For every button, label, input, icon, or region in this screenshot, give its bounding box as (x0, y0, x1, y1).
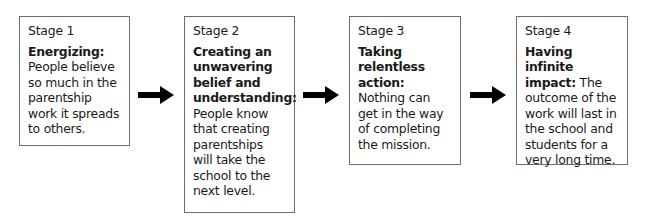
stage-4-box: Stage 4 Having infinite impact: The outc… (516, 16, 628, 165)
stage-2-text: Creating an unwavering belief and unders… (193, 44, 286, 199)
stage-3-text: Taking relentless action: Nothing can ge… (358, 44, 452, 153)
stage-4-text: Having infinite impact: The outcome of t… (525, 44, 619, 168)
stage-1-description: People believe so much in the parentship… (28, 59, 119, 136)
stage-2-description: People know that creating parentships wi… (193, 106, 270, 199)
stage-3-label: Stage 3 (358, 23, 452, 39)
right-arrow-icon (138, 86, 174, 104)
stage-4-label: Stage 4 (525, 23, 619, 39)
stage-1-box: Stage 1 Energizing: People believe so mu… (19, 16, 130, 146)
stage-2-title: Creating an unwavering belief and unders… (193, 44, 297, 106)
stage-4-title: Having infinite impact: (525, 44, 576, 90)
right-arrow-icon (303, 86, 339, 104)
stage-3-box: Stage 3 Taking relentless action: Nothin… (349, 16, 461, 165)
stage-3-description: Nothing can get in the way of completing… (358, 90, 443, 152)
right-arrow-icon (470, 86, 506, 104)
stage-2-label: Stage 2 (193, 23, 286, 39)
stage-3-title: Taking relentless action: (358, 44, 425, 90)
stage-1-text: Energizing: People believe so much in th… (28, 44, 121, 137)
stage-1-title: Energizing: (28, 44, 104, 59)
stage-2-box: Stage 2 Creating an unwavering belief an… (184, 16, 295, 213)
stage-1-label: Stage 1 (28, 23, 121, 39)
